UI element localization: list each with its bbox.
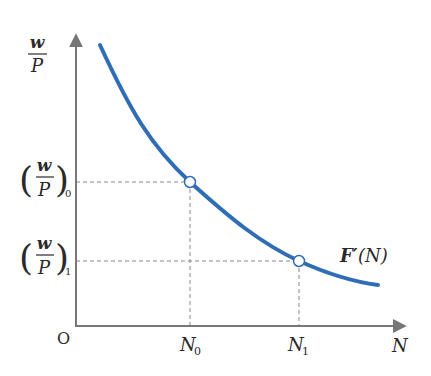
- svg-text:0: 0: [194, 345, 201, 358]
- y-tick-label-1: ( w P ) 1: [19, 233, 71, 278]
- svg-text:1: 1: [65, 266, 71, 277]
- f-prime-curve: [100, 45, 378, 285]
- origin-label: O: [57, 329, 70, 348]
- svg-text:w: w: [37, 233, 53, 253]
- svg-text:F′: F′: [339, 245, 358, 266]
- svg-text:(: (: [19, 159, 33, 200]
- svg-text:w: w: [37, 155, 53, 175]
- x-tick-label-1: N 1: [287, 334, 309, 358]
- labor-demand-diagram: w P ( w P ) 0 ( w P ) 1 O N 0 N 1 N F′ (…: [0, 0, 431, 376]
- svg-text:P: P: [37, 257, 51, 278]
- svg-text:(N): (N): [358, 245, 388, 266]
- y-axis-label: w P: [28, 32, 47, 76]
- y-tick-label-0: ( w P ) 0: [19, 155, 71, 200]
- x-tick-label-0: N 0: [179, 334, 201, 358]
- point-n0: [185, 177, 196, 188]
- curve-label: F′ (N): [339, 245, 388, 266]
- svg-text:P: P: [30, 55, 44, 76]
- svg-text:1: 1: [302, 345, 309, 358]
- svg-text:(: (: [19, 237, 33, 278]
- svg-text:0: 0: [65, 188, 71, 199]
- point-n1: [294, 256, 305, 267]
- x-axis-label: N: [391, 335, 409, 356]
- svg-text:w: w: [30, 32, 46, 52]
- svg-text:P: P: [37, 179, 51, 200]
